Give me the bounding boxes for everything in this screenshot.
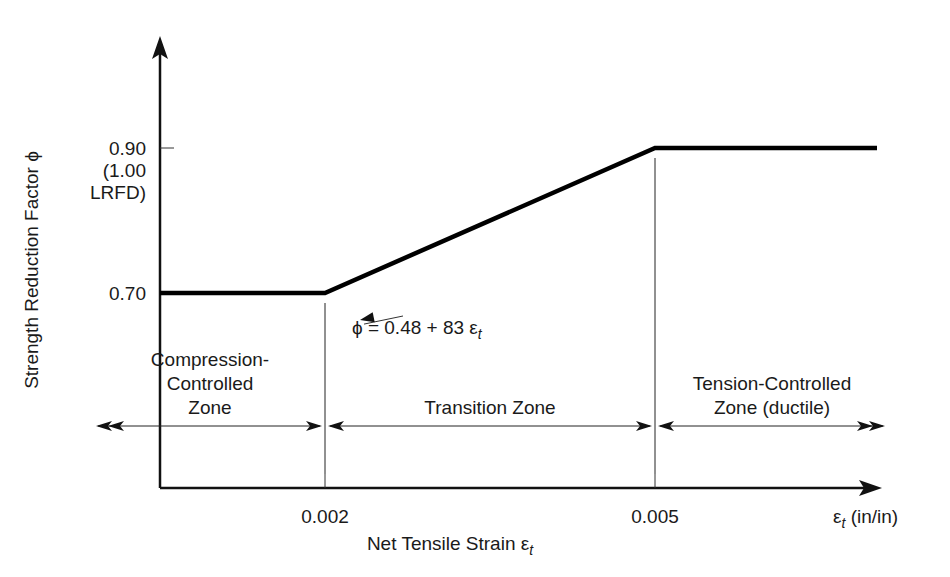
zone-label-line: Controlled — [167, 373, 254, 394]
x-axis-label: Net Tensile Strain εt — [367, 533, 534, 558]
x-axis-unit-label: εt (in/in) — [833, 506, 898, 531]
y-axis-label: Strength Reduction Factor ϕ — [21, 151, 42, 389]
zone-label: Tension-ControlledZone (ductile) — [693, 373, 851, 418]
y-tick-label-line: LRFD) — [90, 182, 146, 203]
phi-curve — [160, 148, 877, 293]
zone-label-line: Tension-Controlled — [693, 373, 851, 394]
annotation-equation-main: ϕ = 0.48 + 83 ε — [352, 317, 478, 338]
zone-label-line: Transition Zone — [424, 397, 555, 418]
x-axis-label-sub: t — [529, 542, 534, 558]
zone-label-line: Zone (ductile) — [714, 397, 830, 418]
x-axis-label-main: Net Tensile Strain ε — [367, 533, 530, 554]
zone-label-line: Compression- — [151, 349, 269, 370]
zone-label: Compression-ControlledZone — [151, 349, 269, 418]
zone-label: Transition Zone — [424, 397, 555, 418]
y-tick-label: 0.70 — [109, 283, 146, 304]
annotation-equation-sub: t — [478, 326, 483, 342]
x-tick-label: 0.005 — [631, 506, 679, 527]
y-tick-label-line: 0.90 — [109, 138, 146, 159]
y-tick-label-line: 0.70 — [109, 283, 146, 304]
y-tick-label: 0.90(1.00LRFD) — [90, 138, 146, 203]
annotation-equation: ϕ = 0.48 + 83 εt — [352, 317, 483, 342]
y-tick-label-line: (1.00 — [103, 160, 146, 181]
zone-label-line: Zone — [188, 397, 231, 418]
chart: 0.700.90(1.00LRFD) 0.0020.005 Compressio… — [0, 0, 950, 577]
x-tick-label: 0.002 — [301, 506, 349, 527]
x-axis-unit-text: (in/in) — [845, 506, 898, 527]
